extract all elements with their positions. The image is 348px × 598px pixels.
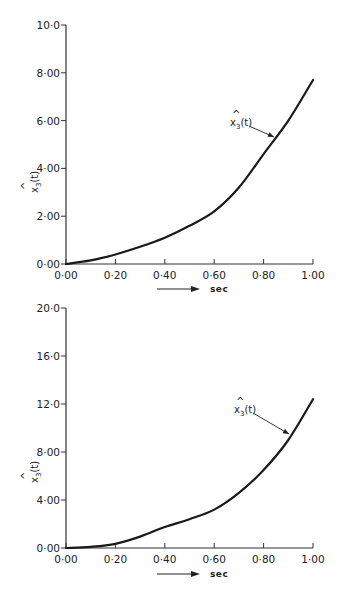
y-tick-label: 16·0 xyxy=(37,350,60,362)
series-line-x3 xyxy=(66,80,313,264)
x-tick-label: 0·40 xyxy=(153,269,176,281)
x-tick-label: 1·00 xyxy=(301,553,324,565)
y-tick-label: 8·00 xyxy=(37,446,60,458)
x-axis-unit: sec xyxy=(210,284,228,294)
annotation-arrow xyxy=(253,413,289,434)
y-tick-label: 4·00 xyxy=(37,494,60,506)
x-tick-label: 0·60 xyxy=(203,553,226,565)
x-tick-label: 0·40 xyxy=(153,553,176,565)
svg-text:x3(t): x3(t) xyxy=(234,404,256,418)
chart-panel-1: 0·002·004·006·008·0010·00·000·200·400·60… xyxy=(20,19,325,294)
y-tick-label: 20·0 xyxy=(37,302,60,314)
svg-text:x3(t): x3(t) xyxy=(29,461,43,483)
chart-panel-2: 0·004·008·0012·016·020·00·000·200·400·60… xyxy=(20,302,325,579)
x-tick-label: 0·20 xyxy=(104,553,127,565)
curve-annotation: ^x3(t) xyxy=(230,109,274,137)
y-tick-label: 4·00 xyxy=(37,162,60,174)
y-axis-label: ^x3(t) xyxy=(20,171,43,193)
x-tick-label: 0·80 xyxy=(252,553,275,565)
figure: 0·002·004·006·008·0010·00·000·200·400·60… xyxy=(0,0,348,598)
svg-text:x3(t): x3(t) xyxy=(230,117,252,131)
x-tick-label: 0·20 xyxy=(104,269,127,281)
y-tick-label: 6·00 xyxy=(37,115,60,127)
x-tick-label: 1·00 xyxy=(301,269,324,281)
x-axis-unit: sec xyxy=(210,569,228,579)
x-tick-label: 0·60 xyxy=(203,269,226,281)
x-tick-label: 0·80 xyxy=(252,269,275,281)
y-tick-label: 8·00 xyxy=(37,67,60,79)
x-tick-label: 0·00 xyxy=(54,269,77,281)
series-line-x3 xyxy=(66,399,313,548)
y-axis-label: ^x3(t) xyxy=(20,461,43,483)
y-tick-label: 12·0 xyxy=(37,398,60,410)
curve-annotation: ^x3(t) xyxy=(234,396,289,434)
x-tick-label: 0·00 xyxy=(54,553,77,565)
y-tick-label: 2·00 xyxy=(37,210,60,222)
y-tick-label: 10·0 xyxy=(37,19,60,31)
